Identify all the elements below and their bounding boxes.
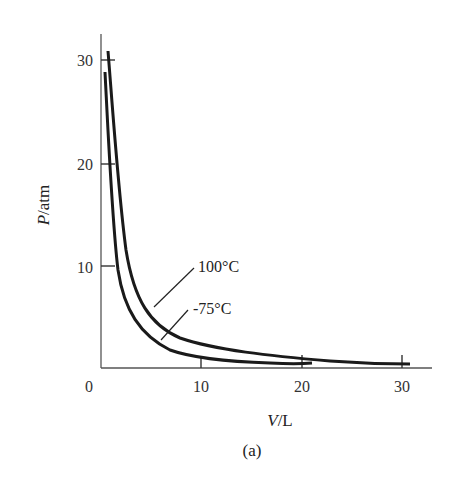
y-axis-label: P/atm bbox=[34, 185, 53, 227]
leader-100C bbox=[154, 268, 194, 307]
y-axis-label-var: P bbox=[34, 215, 53, 226]
annotation-100C: 100°C bbox=[198, 258, 239, 275]
y-tick-label-20: 20 bbox=[77, 156, 93, 173]
y-axis-label-unit: /atm bbox=[34, 185, 53, 215]
figure-caption: (a) bbox=[243, 441, 262, 460]
y-tick-label-10: 10 bbox=[77, 259, 93, 276]
x-tick-label-30: 30 bbox=[394, 378, 410, 395]
curve-100C bbox=[108, 51, 410, 364]
x-axis-label: V/L bbox=[267, 411, 293, 430]
annotation-minus75C: -75°C bbox=[193, 300, 231, 317]
x-tick-label-0: 0 bbox=[85, 378, 93, 395]
isotherm-chart: 30 20 10 0 10 20 30 100°C -75°C V/L P/at… bbox=[0, 0, 471, 504]
x-axis-label-unit: /L bbox=[278, 411, 293, 430]
x-tick-label-20: 20 bbox=[294, 378, 310, 395]
curve-minus75C bbox=[105, 72, 312, 364]
y-tick-label-30: 30 bbox=[77, 52, 93, 69]
x-tick-label-10: 10 bbox=[193, 378, 209, 395]
